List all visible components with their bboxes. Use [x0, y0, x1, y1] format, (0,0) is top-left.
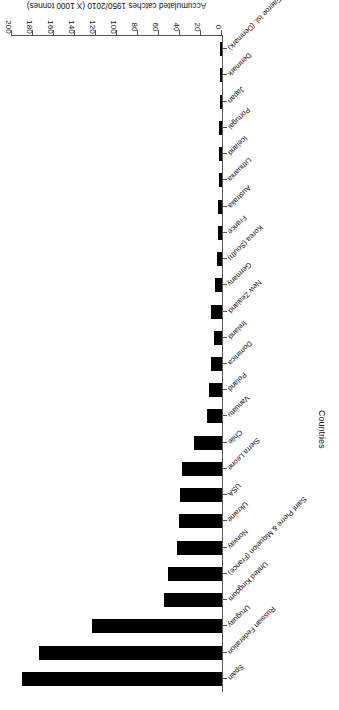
bar[interactable] [23, 672, 223, 686]
bar-row: Faeroe Isl. (Denmark) [12, 42, 222, 56]
category-label: Faeroe Isl. (Denmark) [226, 0, 282, 52]
bar-row: Norway [12, 541, 222, 555]
category-tick [222, 389, 227, 390]
value-tick-label: 140 [67, 20, 75, 33]
category-tick [222, 625, 227, 626]
bar[interactable] [177, 541, 222, 555]
bar[interactable] [220, 42, 222, 56]
bar[interactable] [180, 488, 222, 502]
plot-area: SpainRussian FederationUruguayUnited Kin… [12, 36, 222, 692]
category-label: Norway [226, 527, 249, 550]
value-tick-label: 100 [109, 20, 117, 33]
category-label: Vanuatu [226, 395, 250, 419]
bar[interactable] [207, 409, 222, 423]
bar-row: Vanuatu [12, 409, 222, 423]
bar-row: France [12, 226, 222, 240]
bar[interactable] [218, 226, 222, 240]
bar-row: Chile [12, 436, 222, 450]
value-tick-label: 120 [88, 20, 96, 33]
bar-row: Portugal [12, 121, 222, 135]
category-tick [222, 179, 227, 180]
value-tick-label: 200 [4, 20, 12, 33]
bar-row: Dominica [12, 357, 222, 371]
bar[interactable] [217, 252, 222, 266]
bar[interactable] [212, 357, 223, 371]
category-axis-title: Countries [317, 410, 327, 449]
value-tick-label: 80 [130, 23, 138, 32]
category-tick [222, 258, 227, 259]
category-tick [222, 573, 227, 574]
category-label: Chile [226, 428, 243, 445]
bar[interactable] [219, 147, 222, 161]
category-tick [222, 599, 227, 600]
category-tick [222, 415, 227, 416]
bar-row: Lithuania [12, 173, 222, 187]
category-tick [222, 468, 227, 469]
value-tick-label: 0 [214, 25, 222, 29]
bar[interactable] [212, 305, 223, 319]
bar[interactable] [194, 436, 222, 450]
value-tick [221, 30, 222, 36]
category-tick [222, 48, 227, 49]
category-tick [222, 652, 227, 653]
bar-row: Spain [12, 672, 222, 686]
category-label: Lithuania [226, 156, 252, 182]
category-label: Russian Federation [226, 605, 277, 656]
category-label: Poland [226, 371, 248, 393]
category-label: Japan [226, 85, 245, 104]
value-tick-label: 60 [151, 23, 159, 32]
category-label: Denmark [226, 52, 252, 78]
chart-figure: SpainRussian FederationUruguayUnited Kin… [0, 0, 339, 710]
category-label: USA [226, 482, 242, 498]
category-label: Dominica [226, 340, 253, 367]
bar[interactable] [179, 514, 222, 528]
bar[interactable] [220, 68, 222, 82]
bar[interactable] [209, 383, 222, 397]
bar-row: USA [12, 488, 222, 502]
category-tick [222, 206, 227, 207]
category-tick [222, 678, 227, 679]
bar-row: Ireland [12, 331, 222, 345]
bar-row: Korea (South) [12, 252, 222, 266]
category-label: Germany [226, 261, 253, 288]
bar-row: Iceland [12, 147, 222, 161]
bar[interactable] [182, 462, 222, 476]
bar[interactable] [92, 619, 222, 633]
bar[interactable] [220, 95, 222, 109]
category-label: Ukraine [226, 501, 249, 524]
category-label: Australia [226, 184, 252, 210]
category-tick [222, 101, 227, 102]
bar-row: New Zealand [12, 305, 222, 319]
bar-row: Poland [12, 383, 222, 397]
category-tick [222, 127, 227, 128]
bar-row: Ukraine [12, 514, 222, 528]
category-label: Uruguay [226, 604, 251, 629]
category-tick [222, 520, 227, 521]
category-label: Spain [226, 663, 245, 682]
value-tick-label: 180 [25, 20, 33, 33]
bar[interactable] [218, 200, 222, 214]
category-label: Portugal [226, 106, 251, 131]
bar[interactable] [39, 646, 222, 660]
bar-row: Russian Federation [12, 646, 222, 660]
chart-canvas: SpainRussian FederationUruguayUnited Kin… [0, 0, 339, 710]
bar[interactable] [215, 278, 222, 292]
bar[interactable] [164, 593, 222, 607]
category-tick [222, 363, 227, 364]
value-tick-label: 20 [193, 23, 201, 32]
category-tick [222, 337, 227, 338]
bar-row: Japan [12, 95, 222, 109]
bar[interactable] [168, 567, 222, 581]
value-tick-label: 160 [46, 20, 54, 33]
category-label: France [226, 214, 248, 236]
bar[interactable] [214, 331, 222, 345]
category-tick [222, 442, 227, 443]
category-tick [222, 311, 227, 312]
category-tick [222, 547, 227, 548]
category-label: Iceland [226, 135, 248, 157]
category-label: Ireland [226, 319, 247, 340]
bar[interactable] [219, 121, 222, 135]
bar[interactable] [219, 173, 222, 187]
value-tick-label: 40 [172, 23, 180, 32]
bar-row: Saint Pierre & Miquelon (France) [12, 567, 222, 581]
